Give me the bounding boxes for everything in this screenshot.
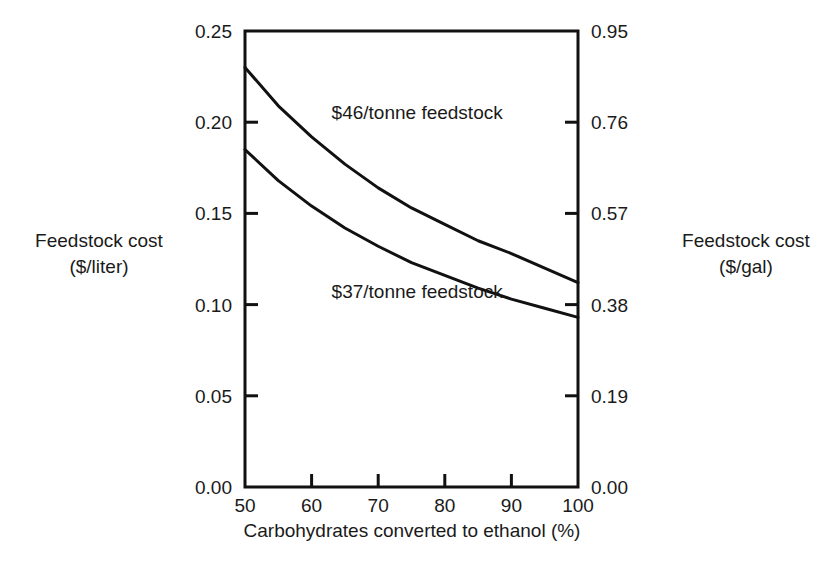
x-tick-label: 50	[215, 496, 275, 515]
y-tick-label-left: 0.10	[166, 296, 232, 315]
y-tick-label-right: 0.95	[591, 22, 657, 41]
y-tick-label-right: 0.00	[591, 478, 657, 497]
x-tick-label: 90	[481, 496, 541, 515]
x-tick-label: 60	[282, 496, 342, 515]
x-tick-label: 100	[548, 496, 608, 515]
y-tick-label-left: 0.15	[166, 204, 232, 223]
x-tick-label: 70	[348, 496, 408, 515]
y-tick-label-left: 0.00	[166, 478, 232, 497]
y-tick-label-right: 0.19	[591, 387, 657, 406]
y-tick-label-right: 0.76	[591, 113, 657, 132]
data-line-1	[245, 67, 578, 282]
y-tick-label-left: 0.20	[166, 113, 232, 132]
series-annotation-2: $37/tonne feedstock	[332, 282, 503, 301]
x-tick-label: 80	[415, 496, 475, 515]
series-annotation-1: $46/tonne feedstock	[332, 103, 503, 122]
y-tick-label-left: 0.05	[166, 387, 232, 406]
y-tick-label-left: 0.25	[166, 22, 232, 41]
y-tick-label-right: 0.57	[591, 204, 657, 223]
y-tick-label-right: 0.38	[591, 296, 657, 315]
chart-figure: Feedstock cost ($/liter) Feedstock cost …	[0, 0, 836, 573]
plot-frame	[245, 31, 578, 487]
